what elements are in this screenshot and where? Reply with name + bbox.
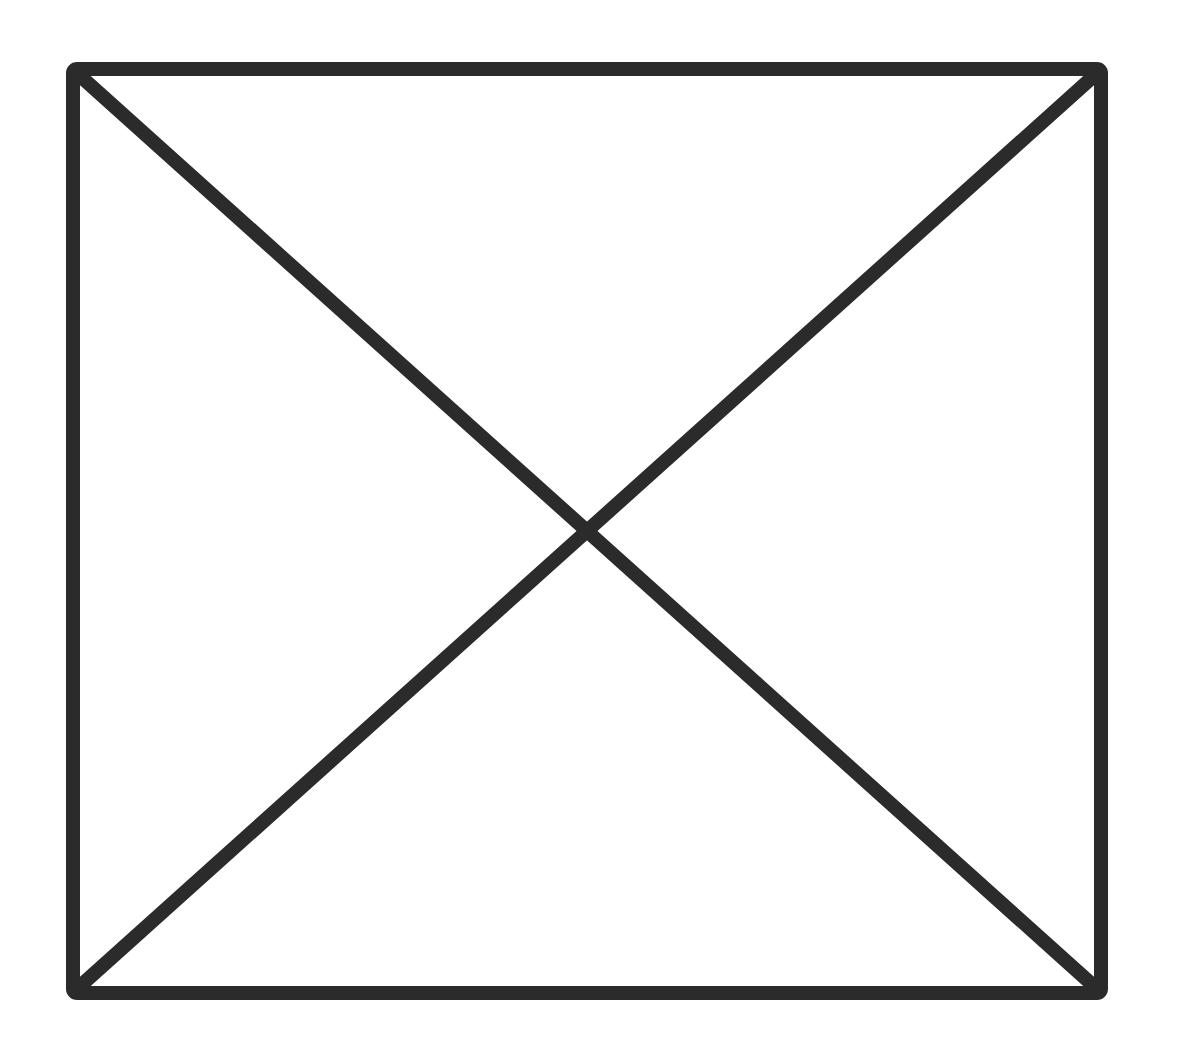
image-placeholder: Image placeholder [0, 0, 1179, 1054]
crossed-box-icon [0, 0, 1179, 1054]
